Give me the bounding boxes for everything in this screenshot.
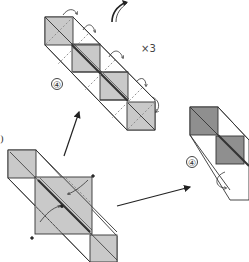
origami-diagram [0, 0, 249, 262]
repeat-count-label: ×3 [141, 44, 156, 54]
step-label-top: ④ [51, 78, 63, 90]
bottom-left-model [8, 150, 117, 262]
step-label-left: ) [0, 134, 4, 144]
rotate-arrow-icon [112, 0, 128, 22]
arrow-right-icon [117, 187, 190, 206]
step-label-right: ④ [186, 156, 198, 168]
right-model [190, 107, 249, 200]
arrow-up-icon [64, 112, 79, 156]
top-model [45, 10, 159, 130]
